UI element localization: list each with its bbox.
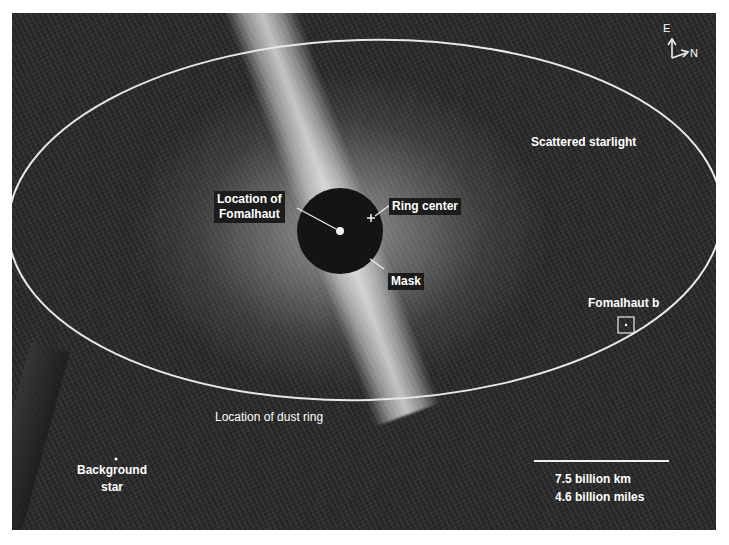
location-of-fomalhaut-label: Location of Fomalhaut bbox=[214, 191, 285, 223]
annotation-overlay bbox=[12, 13, 716, 530]
scattered-starlight-label: Scattered starlight bbox=[531, 135, 636, 150]
astronomical-image: E N Scattered starlight Location of Foma… bbox=[12, 13, 716, 530]
background-star-label: Background star bbox=[77, 462, 147, 496]
fomalhaut-b-label: Fomalhaut b bbox=[588, 296, 659, 311]
ring-center-label: Ring center bbox=[389, 198, 461, 215]
background-star-dot bbox=[115, 458, 118, 461]
background-star-line1: Background bbox=[77, 462, 147, 479]
compass-east-label: E bbox=[663, 21, 670, 36]
location-of-fomalhaut-line2: Fomalhaut bbox=[217, 207, 282, 222]
background-star-line2: star bbox=[77, 479, 147, 496]
fomalhaut-b-dot bbox=[625, 324, 627, 326]
scale-miles-label: 4.6 billion miles bbox=[555, 488, 644, 506]
mask-label: Mask bbox=[388, 273, 424, 290]
scale-label: 7.5 billion km 4.6 billion miles bbox=[555, 470, 644, 506]
mask-leader-line bbox=[370, 259, 384, 269]
fomalhaut-star bbox=[336, 227, 344, 235]
dust-ring-label: Location of dust ring bbox=[215, 410, 323, 425]
compass-north-label: N bbox=[690, 46, 698, 61]
location-of-fomalhaut-line1: Location of bbox=[217, 192, 282, 207]
compass-arrows-icon bbox=[668, 39, 688, 58]
scale-km-label: 7.5 billion km bbox=[555, 470, 644, 488]
